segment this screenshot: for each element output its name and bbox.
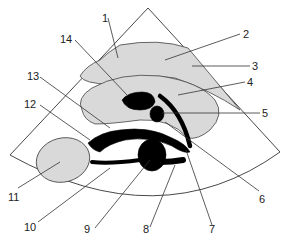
label-6: 6 [259,193,265,205]
ultrasound-diagram: 1 2 3 4 5 6 7 8 9 10 11 12 13 14 [0,0,291,238]
leader-9 [95,160,150,228]
organ-11-oval [31,132,95,188]
label-10: 10 [24,221,36,233]
label-2: 2 [243,28,249,40]
label-9: 9 [84,223,90,235]
label-7: 7 [209,223,215,235]
vessel-8-branch [160,160,183,162]
label-14: 14 [60,33,72,45]
leader-6 [165,122,259,191]
label-4: 4 [247,76,253,88]
label-11: 11 [8,191,19,203]
label-12: 12 [24,98,36,110]
vessel-9-blob [138,139,166,171]
label-3: 3 [252,60,258,72]
label-1: 1 [102,12,108,24]
label-5: 5 [262,107,268,119]
vessel-10-lower-branch [92,160,140,163]
vessel-5-blob [150,106,164,122]
label-13: 13 [27,70,39,82]
label-8: 8 [143,223,149,235]
